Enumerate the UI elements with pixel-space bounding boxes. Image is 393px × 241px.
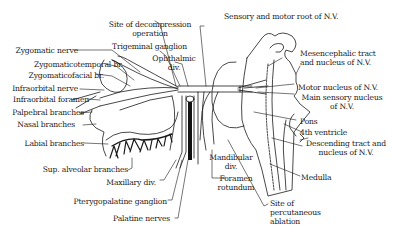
- label-descending-tract: Descending tract and nucleus of N.V.: [300, 139, 392, 157]
- maxilla-outline: [90, 110, 106, 156]
- label-line: Foramen: [214, 174, 258, 183]
- label-mandibular-div: Mandibular div.: [208, 153, 254, 171]
- label-infraorbital-nerve: Infraorbital nerve: [0, 84, 78, 93]
- descending-tract-inner-b: [272, 60, 280, 190]
- mandibular-line: [198, 92, 206, 164]
- label-labial-branches: Labial branches: [0, 139, 84, 148]
- label-infraorbital-foramen: Infraorbital foramen: [0, 95, 89, 104]
- label-line: rotundum: [214, 183, 258, 192]
- label-sensory-motor-root: Sensory and motor root of N.V.: [224, 12, 338, 21]
- label-palatine-nerves: Palatine nerves: [0, 214, 170, 223]
- label-line: Site of: [270, 199, 321, 208]
- label-pons: Pons: [300, 117, 318, 126]
- label-zygomaticofacial: Zygomaticofacial br.: [0, 71, 104, 80]
- label-line: Descending tract and: [300, 139, 392, 148]
- label-line: Site of decompression: [106, 20, 194, 29]
- label-line: div.: [208, 162, 254, 171]
- ventricle-curl: [290, 114, 297, 136]
- label-line: Main sensory nucleus: [296, 93, 388, 102]
- label-line: Mesencephalic tract: [300, 49, 376, 58]
- label-main-sensory-nucleus: Main sensory nucleus of N.V.: [296, 93, 388, 111]
- label-site-of-percutaneous-ablation: Site of percutaneous ablation: [270, 199, 321, 226]
- label-trigeminal-ganglion: Trigeminal ganglion: [112, 42, 187, 51]
- trigeminal-nerve-diagram: Site of decompression operation Trigemin…: [0, 0, 393, 241]
- label-line: percutaneous: [270, 208, 321, 217]
- label-line: div.: [150, 63, 198, 72]
- label-sup-alveolar-branches: Sup. alveolar branches: [0, 165, 128, 174]
- label-palpebral-branches: Palpebral branches: [0, 108, 84, 117]
- label-pterygopalatine-ganglion: Pterygopalatine ganglion: [0, 197, 167, 206]
- label-medulla: Medulla: [301, 173, 331, 182]
- label-mesencephalic-tract: Mesencephalic tract and nucleus of N.V.: [300, 49, 376, 67]
- label-foramen-rotundum: Foramen rotundum: [214, 174, 258, 192]
- fourth-ventricle-line: [283, 120, 286, 190]
- label-nasal-branches: Nasal branches: [0, 120, 75, 129]
- label-line: operation: [106, 29, 194, 38]
- label-line: and nucleus of N.V.: [300, 58, 376, 67]
- label-site-of-decompression: Site of decompression operation: [106, 20, 194, 38]
- sphenoid-bar: [188, 102, 192, 160]
- brainstem-outline: [212, 33, 310, 196]
- label-maxillary-div: Maxillary div.: [0, 178, 156, 187]
- label-line: ablation: [270, 217, 321, 226]
- label-zygomatic-nerve: Zygomatic nerve: [0, 46, 78, 55]
- label-motor-nucleus: Motor nucleus of N.V.: [298, 83, 378, 92]
- label-line: Mandibular: [208, 153, 254, 162]
- label-line: Ophthalmic: [150, 54, 198, 63]
- pterygopalatine-column: [176, 92, 206, 168]
- label-zygomaticotemporal: Zygomaticotemporal br.: [0, 60, 123, 69]
- label-4th-ventricle: 4th ventricle: [300, 128, 347, 137]
- label-line: of N.V.: [296, 102, 388, 111]
- ganglion-knob: [186, 96, 194, 102]
- label-ophthalmic-div: Ophthalmic div.: [150, 54, 198, 72]
- cerebellar-peduncle: [270, 44, 284, 53]
- label-line: nucleus of N.V.: [300, 148, 392, 157]
